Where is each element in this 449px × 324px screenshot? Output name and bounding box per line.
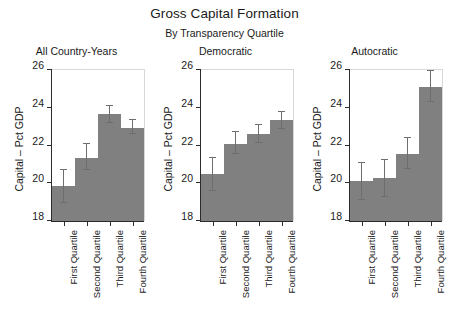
x-axis-tick [133, 221, 134, 226]
y-axis-label: Capital – Pct GDP [311, 89, 323, 209]
x-axis-tick-label: Second Quartile [389, 230, 400, 298]
error-bar-cap [381, 196, 388, 197]
x-axis-tick [110, 221, 111, 226]
panel-autocratic: AutocraticCapital – Pct GDP1820222426Fir… [300, 45, 449, 315]
error-bar [281, 112, 282, 129]
x-axis-tick [385, 221, 386, 226]
bar [270, 120, 293, 221]
bar [247, 134, 270, 221]
x-axis-tick-label: Third Quartile [114, 230, 125, 288]
error-bar [407, 138, 408, 169]
x-axis-tick-label: Second Quartile [240, 230, 251, 298]
error-bar-cap [358, 162, 365, 163]
y-axis-tick-label: 20 [330, 172, 342, 184]
y-axis-tick [47, 69, 52, 70]
error-bar-cap [358, 199, 365, 200]
error-bar [384, 160, 385, 198]
x-axis-tick-label: Fourth Quartile [435, 230, 446, 293]
y-axis-tick [47, 145, 52, 146]
bar [121, 128, 144, 221]
y-axis-tick [47, 182, 52, 183]
y-axis-tick-label: 18 [32, 210, 44, 222]
y-axis-label: Capital – Pct GDP [162, 89, 174, 209]
error-bar-cap [404, 137, 411, 138]
y-axis-tick-label: 20 [32, 172, 44, 184]
error-bar-cap [278, 128, 285, 129]
x-axis-tick [64, 221, 65, 226]
error-bar-cap [106, 122, 113, 123]
error-bar [63, 170, 64, 203]
y-axis-tick-label: 24 [330, 97, 342, 109]
plot-area: 1820222426First QuartileSecond QuartileT… [349, 70, 442, 222]
error-bar-cap [209, 190, 216, 191]
error-bar [361, 163, 362, 200]
x-axis-tick [213, 221, 214, 226]
y-axis-tick-label: 26 [32, 59, 44, 71]
error-bar [212, 158, 213, 191]
error-bar-cap [83, 169, 90, 170]
error-bar [86, 144, 87, 170]
chart-subtitle: By Transparency Quartile [0, 27, 449, 39]
x-axis-tick-label: Fourth Quartile [286, 230, 297, 293]
error-bar [235, 132, 236, 154]
x-axis-tick [259, 221, 260, 226]
error-bar-cap [255, 142, 262, 143]
y-axis-tick [345, 69, 350, 70]
y-axis-tick [196, 107, 201, 108]
x-axis-tick [236, 221, 237, 226]
panel-title: Autocratic [300, 45, 449, 57]
y-axis-label: Capital – Pct GDP [13, 89, 25, 209]
x-axis-tick [408, 221, 409, 226]
y-axis-tick-label: 18 [181, 210, 193, 222]
error-bar [132, 120, 133, 134]
x-axis-tick-label: Third Quartile [412, 230, 423, 288]
error-bar-cap [129, 133, 136, 134]
x-axis-tick [87, 221, 88, 226]
plot-area: 1820222426First QuartileSecond QuartileT… [51, 70, 144, 222]
y-axis-tick [345, 145, 350, 146]
x-axis-tick [282, 221, 283, 226]
x-axis-tick [362, 221, 363, 226]
y-axis-tick [345, 107, 350, 108]
error-bar-cap [232, 153, 239, 154]
y-axis-tick-label: 22 [32, 135, 44, 147]
x-axis-tick-label: First Quartile [217, 230, 228, 284]
y-axis-tick [196, 69, 201, 70]
error-bar-cap [255, 124, 262, 125]
panel-all-country-years: All Country-YearsCapital – Pct GDP182022… [2, 45, 151, 315]
error-bar [109, 106, 110, 123]
x-axis-tick-label: Second Quartile [91, 230, 102, 298]
panel-title: Democratic [151, 45, 300, 57]
error-bar-cap [381, 159, 388, 160]
error-bar-cap [427, 70, 434, 71]
bar [98, 114, 121, 221]
y-axis-tick-label: 20 [181, 172, 193, 184]
error-bar [430, 71, 431, 102]
plot-area: 1820222426First QuartileSecond QuartileT… [200, 70, 293, 222]
error-bar-cap [232, 131, 239, 132]
error-bar-cap [83, 143, 90, 144]
error-bar-cap [278, 111, 285, 112]
panel-democratic: DemocraticCapital – Pct GDP1820222426Fir… [151, 45, 300, 315]
y-axis-tick-label: 24 [32, 97, 44, 109]
x-axis-tick-label: First Quartile [366, 230, 377, 284]
x-axis-tick-label: Third Quartile [263, 230, 274, 288]
y-axis-tick-label: 22 [181, 135, 193, 147]
error-bar [258, 125, 259, 143]
x-axis-tick-label: Fourth Quartile [137, 230, 148, 293]
error-bar-cap [60, 202, 67, 203]
y-axis-tick-label: 22 [330, 135, 342, 147]
error-bar-cap [427, 101, 434, 102]
y-axis-tick-label: 26 [181, 59, 193, 71]
error-bar-cap [209, 157, 216, 158]
x-axis-tick [431, 221, 432, 226]
y-axis-tick [47, 107, 52, 108]
error-bar-cap [106, 105, 113, 106]
error-bar-cap [60, 169, 67, 170]
panel-title: All Country-Years [2, 45, 151, 57]
y-axis-tick-label: 24 [181, 97, 193, 109]
bar [419, 87, 442, 221]
y-axis-tick-label: 18 [330, 210, 342, 222]
y-axis-tick-label: 26 [330, 59, 342, 71]
x-axis-tick-label: First Quartile [68, 230, 79, 284]
